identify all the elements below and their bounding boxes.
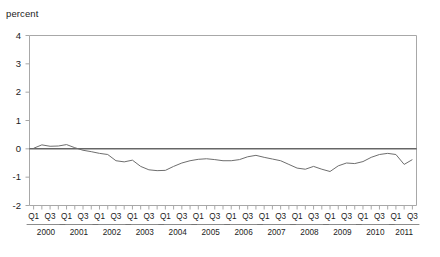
y-tick-label: 3 <box>5 58 21 69</box>
x-quarter-label: Q1 <box>90 212 108 221</box>
x-quarter-label: Q1 <box>123 212 141 221</box>
x-quarter-label: Q3 <box>206 212 224 221</box>
y-tick-label: 2 <box>5 86 21 97</box>
x-quarter-label: Q3 <box>239 212 257 221</box>
y-axis-ticks <box>26 36 30 206</box>
x-quarter-label: Q1 <box>25 212 43 221</box>
x-quarter-label: Q3 <box>107 212 125 221</box>
x-quarter-label: Q3 <box>140 212 158 221</box>
y-tick-label: 0 <box>5 143 21 154</box>
plot-frame <box>30 36 417 206</box>
x-quarter-label: Q1 <box>255 212 273 221</box>
x-quarter-label: Q3 <box>403 212 421 221</box>
x-quarter-label: Q3 <box>173 212 191 221</box>
x-quarter-label: Q1 <box>321 212 339 221</box>
x-quarter-label: Q3 <box>305 212 323 221</box>
x-axis-ticks <box>34 206 413 210</box>
x-quarter-label: Q1 <box>58 212 76 221</box>
x-quarter-label: Q3 <box>41 212 59 221</box>
x-quarter-label: Q1 <box>387 212 405 221</box>
x-quarter-label: Q1 <box>222 212 240 221</box>
x-quarter-label: Q1 <box>189 212 207 221</box>
quarterly-percent-line-chart: percent 43210-1-2 Q1Q3Q1Q3Q1Q3Q1Q3Q1Q3Q1… <box>0 0 440 257</box>
y-tick-label: -1 <box>5 171 21 182</box>
x-quarter-label: Q1 <box>156 212 174 221</box>
x-quarter-label: Q1 <box>354 212 372 221</box>
x-quarter-label: Q3 <box>272 212 290 221</box>
x-quarter-label: Q3 <box>338 212 356 221</box>
y-tick-label: 4 <box>5 30 21 41</box>
x-quarter-label: Q1 <box>288 212 306 221</box>
x-year-label: 2011 <box>384 228 424 237</box>
x-quarter-label: Q3 <box>370 212 388 221</box>
x-quarter-label: Q3 <box>74 212 92 221</box>
y-tick-label: -2 <box>5 200 21 211</box>
y-tick-label: 1 <box>5 115 21 126</box>
